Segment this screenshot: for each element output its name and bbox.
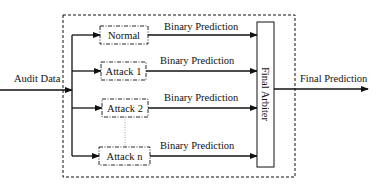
classifier-normal: Normal [100,26,148,44]
classifier-attack-n: Attack n [99,147,150,165]
final-arbiter: Final Arbiter [257,22,274,167]
edge-label-attack-n: Binary Prediction [160,140,235,151]
edge-label-attack-1: Binary Prediction [160,55,235,66]
svg-text:Attack n: Attack n [107,151,144,162]
svg-text:Normal: Normal [108,30,140,41]
svg-text:Attack 1: Attack 1 [106,66,142,77]
output-label: Final Prediction [300,73,368,84]
svg-text:Attack 2: Attack 2 [107,103,143,114]
classifier-attack-1: Attack 1 [101,62,146,80]
classifier-attack-2: Attack 2 [102,99,148,117]
edge-label-attack-2: Binary Prediction [164,92,239,103]
svg-text:Final Arbiter: Final Arbiter [260,67,271,121]
ensemble-diagram: Audit Data Normal Attack 1 Attack 2 Atta… [0,0,382,185]
input-label: Audit Data [14,73,61,84]
edge-label-normal: Binary Prediction [164,21,239,32]
